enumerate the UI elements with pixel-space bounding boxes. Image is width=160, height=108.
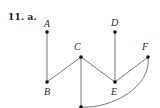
vertex-label-C: C (74, 41, 81, 52)
graph-edges (47, 32, 148, 107)
vertex-G-dot-icon (79, 105, 83, 108)
graph-diagram: ABCDEF (0, 0, 160, 108)
vertex-D-dot-icon (113, 30, 117, 34)
vertex-E-dot-icon (113, 80, 117, 84)
edge-C-E (81, 57, 115, 82)
vertex-label-B: B (44, 86, 50, 97)
vertex-label-A: A (43, 18, 51, 29)
vertex-B-dot-icon (45, 80, 49, 84)
vertex-label-F: F (141, 41, 149, 52)
vertex-F-dot-icon (146, 55, 150, 59)
vertex-label-E: E (110, 86, 117, 97)
graph-vertex-labels: ABCDEF (43, 17, 149, 97)
edge-B-C (47, 57, 81, 82)
vertex-label-D: D (110, 17, 119, 28)
vertex-C-dot-icon (79, 55, 83, 59)
vertex-A-dot-icon (45, 30, 49, 34)
